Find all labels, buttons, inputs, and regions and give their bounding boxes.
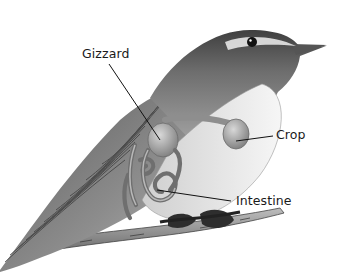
intestine-label: Intestine: [236, 193, 292, 208]
crop-label: Crop: [276, 127, 306, 142]
beak: [292, 44, 327, 55]
crop-organ: [223, 119, 249, 149]
bird-digestive-diagram: Gizzard Crop Intestine: [0, 0, 338, 272]
gizzard-label: Gizzard: [82, 46, 130, 61]
eye: [247, 37, 257, 47]
